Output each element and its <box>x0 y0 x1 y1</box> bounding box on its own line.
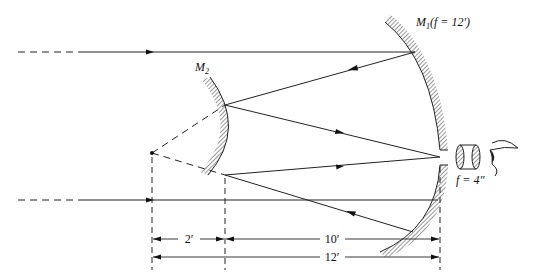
label-M2: M2 <box>194 60 209 76</box>
secondary-mirror-M2 <box>200 77 229 175</box>
dimension-2ft: 2′ <box>153 232 224 246</box>
incoming-ray-bottom <box>18 198 438 203</box>
incoming-ray-top <box>18 50 415 55</box>
dimension-label-2ft: 2′ <box>185 232 194 246</box>
observer-eye <box>490 140 518 176</box>
converging-ray-lower <box>225 157 440 175</box>
label-eyepiece-focal: f = 4″ <box>456 173 485 187</box>
primary-mirror-M1 <box>380 14 448 258</box>
dimension-label-10ft: 10′ <box>325 232 340 246</box>
eyepiece-lens <box>456 145 480 169</box>
dimension-label-12ft: 12′ <box>325 250 340 264</box>
reflected-ray-lower <box>225 175 413 232</box>
virtual-focus-point <box>150 151 154 155</box>
label-M1: M1(f = 12′) <box>415 15 470 31</box>
reflected-ray-upper <box>225 52 415 105</box>
cassegrain-diagram: 2′ 10′ 12′ M1(f = 12′) M2 f = 4″ <box>0 0 535 276</box>
reference-lines <box>152 157 440 270</box>
converging-ray-upper <box>225 105 440 157</box>
